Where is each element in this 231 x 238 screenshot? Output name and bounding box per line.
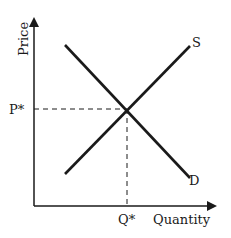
demand-curve-label: D	[189, 173, 199, 188]
quantity-equilibrium-label: Q*	[118, 212, 136, 227]
y-axis-label: Price	[16, 22, 31, 56]
supply-curve-label: S	[192, 35, 201, 50]
price-equilibrium-label: P*	[9, 102, 25, 117]
x-axis-label: Quantity	[153, 212, 211, 227]
supply-demand-diagram: Price Quantity P* Q* S D	[0, 0, 231, 238]
